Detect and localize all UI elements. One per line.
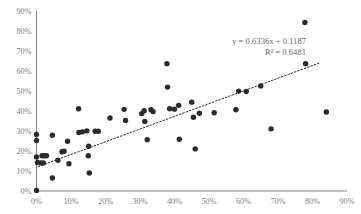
x-tick-label: 40% <box>167 197 182 206</box>
data-point <box>324 109 329 114</box>
x-tick-label: 50% <box>201 197 216 206</box>
x-tick-label: 60% <box>236 197 251 206</box>
data-point <box>142 119 147 124</box>
data-point <box>96 129 101 134</box>
y-tick-label: 10% <box>16 167 31 176</box>
data-point <box>211 110 216 115</box>
y-tick-label: 80% <box>16 27 31 36</box>
data-point <box>34 154 39 159</box>
data-point <box>197 110 202 115</box>
y-tick-label: 30% <box>16 127 31 136</box>
data-point <box>189 99 194 104</box>
data-point <box>55 158 60 163</box>
x-tick-label: 10% <box>63 197 78 206</box>
data-point <box>141 108 146 113</box>
y-tick-labels: 0%10%20%30%40%50%60%70%80%90% <box>16 7 31 197</box>
trendline <box>38 63 319 167</box>
data-point <box>34 188 39 193</box>
x-tick-labels: 0%10%20%30%40%50%60%70%80%90% <box>31 197 355 206</box>
data-point <box>61 149 66 154</box>
scatter-chart: 0%10%20%30%40%50%60%70%80%90% 0%10%20%30… <box>0 0 361 214</box>
data-point <box>191 114 196 119</box>
y-tick-label: 20% <box>16 147 31 156</box>
data-point <box>86 153 91 158</box>
data-point <box>123 118 128 123</box>
data-point <box>34 132 39 137</box>
data-point <box>76 106 81 111</box>
data-point <box>172 106 177 111</box>
data-point <box>41 160 46 165</box>
x-tick-label: 30% <box>132 197 147 206</box>
data-point <box>177 137 182 142</box>
data-point <box>164 61 169 66</box>
y-tick-label: 0% <box>21 187 32 196</box>
x-tick-label: 70% <box>270 197 285 206</box>
y-tick-label: 90% <box>16 7 31 16</box>
y-tick-label: 70% <box>16 47 31 56</box>
data-point <box>50 133 55 138</box>
data-point <box>87 170 92 175</box>
data-point <box>233 107 238 112</box>
data-point <box>258 83 263 88</box>
data-point <box>84 128 89 133</box>
data-point <box>34 138 39 143</box>
y-tick-label: 60% <box>16 67 31 76</box>
data-point <box>165 84 170 89</box>
data-point <box>150 109 155 114</box>
x-tick-label: 90% <box>339 197 354 206</box>
data-point <box>268 126 273 131</box>
data-point <box>44 153 49 158</box>
x-tick-label: 20% <box>98 197 113 206</box>
data-point <box>303 61 308 66</box>
data-point <box>244 89 249 94</box>
x-tick-label: 80% <box>305 197 320 206</box>
plot-canvas: 0%10%20%30%40%50%60%70%80%90% 0%10%20%30… <box>0 0 361 214</box>
data-point <box>80 129 85 134</box>
y-tick-label: 50% <box>16 87 31 96</box>
data-point <box>107 115 112 120</box>
data-point <box>176 103 181 108</box>
data-point <box>236 88 241 93</box>
data-point <box>193 146 198 151</box>
r-squared-label: R² = 0.6481 <box>265 47 306 57</box>
data-point <box>66 161 71 166</box>
y-tick-label: 40% <box>16 107 31 116</box>
data-point <box>302 20 307 25</box>
data-point <box>145 137 150 142</box>
trendline-equation-label: y = 0.6336x + 0.1187 <box>232 36 307 46</box>
data-point <box>167 106 172 111</box>
data-point <box>86 144 91 149</box>
data-point <box>121 107 126 112</box>
x-tick-label: 0% <box>31 197 42 206</box>
data-point <box>50 175 55 180</box>
data-point <box>65 139 70 144</box>
